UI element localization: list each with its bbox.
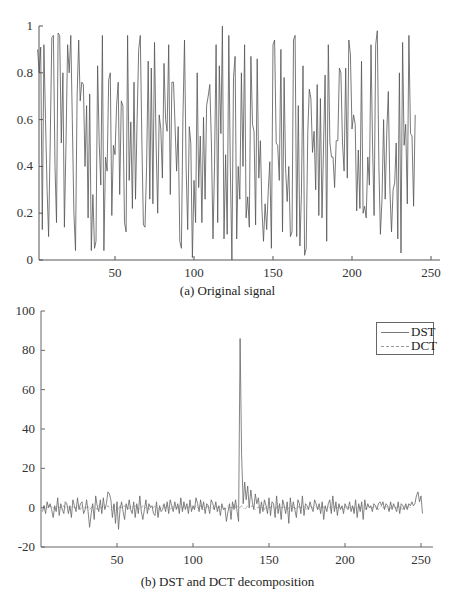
legend-solid-line-icon: [381, 332, 409, 333]
x-tick-label: 50: [109, 265, 122, 280]
legend-label-dct: DCT: [411, 338, 437, 354]
y-tick-label: 100: [16, 303, 36, 318]
y-tick-label: 0: [29, 500, 36, 515]
y-tick-label: 40: [22, 421, 35, 436]
x-tick-label: 250: [411, 552, 431, 567]
y-tick-label: 0.2: [17, 205, 33, 220]
y-tick-label: -20: [18, 539, 35, 554]
panel-b-caption: (b) DST and DCT decomposition: [0, 574, 455, 590]
x-tick-label: 200: [335, 552, 355, 567]
x-tick-label: 100: [183, 552, 203, 567]
y-tick-label: 0.6: [17, 112, 34, 127]
y-tick-label: 20: [22, 460, 35, 475]
y-tick-label: 0.4: [17, 158, 34, 173]
legend-entry-dst: DST: [381, 325, 436, 339]
panel-b-legend: DST DCT: [376, 322, 434, 355]
y-tick-label: 1: [27, 18, 34, 33]
x-tick-label: 150: [263, 265, 283, 280]
x-tick-label: 100: [184, 265, 204, 280]
legend-entry-dct: DCT: [381, 339, 437, 353]
original-signal-line: [38, 26, 416, 260]
figure-canvas: 00.20.40.60.81 50100150200250 -200204060…: [0, 0, 455, 605]
panel-b-dst-dct: -20020406080100 50100150200250: [16, 303, 434, 567]
panel-a-original-signal: 00.20.40.60.81 50100150200250: [17, 18, 441, 280]
x-tick-label: 150: [259, 552, 279, 567]
y-tick-label: 60: [22, 382, 35, 397]
x-tick-label: 250: [421, 265, 441, 280]
legend-dashdot-line-icon: [381, 346, 409, 347]
y-tick-label: 0: [27, 252, 34, 267]
y-tick-label: 80: [22, 342, 35, 357]
x-tick-label: 50: [111, 552, 124, 567]
x-tick-label: 200: [342, 265, 362, 280]
dst-series-line: [43, 339, 423, 530]
y-tick-label: 0.8: [17, 65, 33, 80]
panel-a-caption: (a) Original signal: [0, 283, 455, 299]
